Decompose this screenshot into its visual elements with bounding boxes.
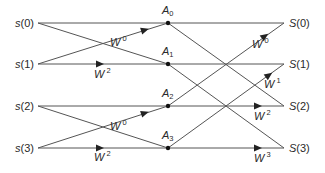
node-label-a1: A1 [161, 45, 174, 59]
node-label-a2: A2 [161, 87, 174, 101]
weight-label: W0 [110, 34, 127, 48]
arrow-icon [140, 25, 150, 34]
edges [38, 23, 284, 148]
weight-label: W0 [110, 118, 127, 132]
node-label-a0: A0 [161, 4, 174, 18]
node-a2 [166, 104, 170, 108]
arrow-icon [254, 145, 262, 152]
input-label-3: s(3) [15, 142, 34, 154]
arrows [96, 25, 274, 151]
output-label-1: S(1) [289, 58, 310, 70]
labels: A0A1A2A3s(0)s(1)s(2)s(3)S(0)S(1)S(2)S(3)… [15, 4, 310, 164]
arrow-icon [254, 103, 262, 110]
node-a0 [166, 21, 170, 25]
arrow-icon [140, 108, 150, 117]
weight-label: W2 [254, 108, 271, 122]
output-label-0: S(0) [289, 17, 310, 29]
node-label-a3: A3 [161, 129, 174, 143]
weight-label: W1 [264, 76, 281, 90]
weight-label: W0 [252, 36, 269, 50]
node-a3 [166, 146, 170, 150]
output-label-2: S(2) [289, 100, 310, 112]
input-label-2: s(2) [15, 100, 34, 112]
weight-label: W2 [94, 149, 111, 163]
input-label-1: s(1) [15, 58, 34, 70]
weight-label: W3 [254, 150, 271, 164]
node-a1 [166, 62, 170, 66]
output-label-3: S(3) [289, 142, 310, 154]
input-label-0: s(0) [15, 17, 34, 29]
fft-flow-graph: A0A1A2A3s(0)s(1)s(2)s(3)S(0)S(1)S(2)S(3)… [0, 0, 325, 173]
weight-label: W2 [94, 66, 111, 80]
arrow-icon [96, 61, 104, 68]
